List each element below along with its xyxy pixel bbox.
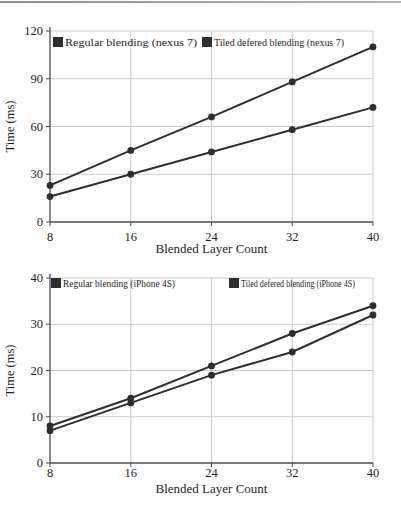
y-axis-label: Time (ms)	[3, 101, 17, 153]
x-tick-label: 8	[47, 466, 53, 480]
y-tick-label: 90	[31, 72, 44, 86]
x-tick-label: 40	[367, 466, 380, 480]
legend-swatch	[229, 278, 239, 288]
legend-label: Regular blending (iPhone 4S)	[63, 278, 175, 290]
data-point	[208, 362, 215, 369]
chart-stack: 0306090120816243240Time (ms)Blended Laye…	[0, 0, 401, 517]
data-point	[208, 149, 215, 156]
data-point	[370, 44, 377, 51]
legend-label: Tiled defered blending (iPhone 4S)	[241, 278, 355, 290]
x-axis-label: Blended Layer Count	[156, 481, 268, 496]
legend-label: Regular blending (nexus 7)	[65, 36, 197, 49]
x-tick-label: 32	[286, 466, 299, 480]
data-point	[127, 399, 134, 406]
legend-swatch	[51, 278, 61, 288]
x-tick-label: 16	[125, 466, 138, 480]
y-tick-label: 40	[31, 271, 44, 285]
data-point	[208, 114, 215, 121]
x-tick-label: 8	[47, 230, 53, 244]
data-point	[208, 372, 215, 379]
y-tick-label: 10	[31, 410, 44, 424]
legend-label: Tiled defered blending (nexus 7)	[214, 36, 344, 49]
data-point	[47, 182, 54, 189]
y-tick-label: 20	[31, 364, 44, 378]
data-point	[289, 330, 296, 337]
x-tick-label: 40	[367, 230, 380, 244]
chart-nexus7: 0306090120816243240Time (ms)Blended Laye…	[0, 0, 401, 260]
y-tick-label: 0	[37, 215, 43, 229]
y-axis-label: Time (ms)	[3, 345, 17, 397]
data-point	[289, 79, 296, 86]
data-point	[370, 104, 377, 111]
data-point	[289, 349, 296, 356]
y-tick-label: 60	[31, 120, 44, 134]
data-point	[370, 302, 377, 309]
x-tick-label: 16	[125, 230, 138, 244]
legend-swatch	[202, 37, 212, 47]
x-tick-label: 24	[205, 466, 218, 480]
chart-iphone4s: 010203040816243240Time (ms)Blended Layer…	[0, 260, 401, 517]
data-point	[47, 427, 54, 434]
y-tick-label: 0	[37, 456, 43, 470]
data-point	[370, 312, 377, 319]
y-tick-label: 30	[31, 167, 44, 181]
legend-swatch	[53, 37, 63, 47]
chart-0-svg: 0306090120816243240Time (ms)Blended Laye…	[0, 0, 401, 260]
data-point	[127, 147, 134, 154]
data-point	[289, 126, 296, 133]
figure-page: 0306090120816243240Time (ms)Blended Laye…	[0, 0, 401, 517]
data-point	[127, 171, 134, 178]
data-point	[47, 193, 54, 200]
x-tick-label: 32	[286, 230, 299, 244]
y-tick-label: 120	[24, 24, 43, 38]
chart-1-svg: 010203040816243240Time (ms)Blended Layer…	[0, 260, 401, 517]
x-axis-label: Blended Layer Count	[156, 241, 268, 256]
y-tick-label: 30	[31, 317, 44, 331]
